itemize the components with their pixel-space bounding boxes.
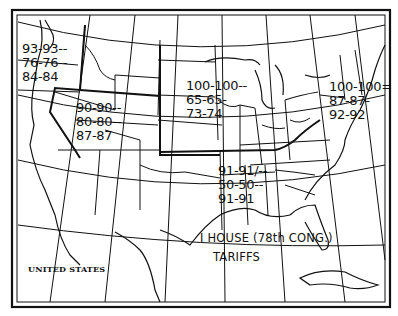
region-annotation-northeast: 100-100= 87-87- 92-92 [329,80,392,122]
annotation-line: 73-74 [186,107,247,121]
annotation-line: 76-76-- [22,56,67,70]
annotation-line: 65-65- [186,93,247,107]
annotation-line: 50-50-- [218,178,267,192]
inner-frame [17,15,385,302]
annotation-line: 93-93-- [22,42,67,56]
annotation-line: 84-84 [22,70,67,84]
country-label: UNITED STATES [28,264,105,274]
annotation-line: 91-91 [218,192,267,206]
annotation-line: 80-80-- [76,115,121,129]
region-annotation-mountain: 90-90-- 80-80-- 87-87 [76,101,121,143]
annotation-line: 90-90-- [76,101,121,115]
annotation-line: 100-100= [329,80,392,94]
outer-frame [12,10,390,307]
map-title-line2: TARIFFS [213,250,260,264]
annotation-line: 100-100-- [186,79,247,93]
region-annotation-midwest: 100-100-- 65-65- 73-74 [186,79,247,121]
region-annotation-pacific-northwest: 93-93-- 76-76-- 84-84 [22,42,67,84]
annotation-line: 87-87- [329,94,392,108]
annotation-line: 87-87 [76,129,121,143]
annotation-line: 92-92 [329,108,392,122]
region-annotation-south-central: 91-91/-- 50-50-- 91-91 [218,164,267,206]
map-title-line1: I HOUSE (78th CONG.) [200,231,333,245]
annotation-line: 91-91/-- [218,164,267,178]
map-figure: 93-93-- 76-76-- 84-84 90-90-- 80-80-- 87… [0,0,398,316]
